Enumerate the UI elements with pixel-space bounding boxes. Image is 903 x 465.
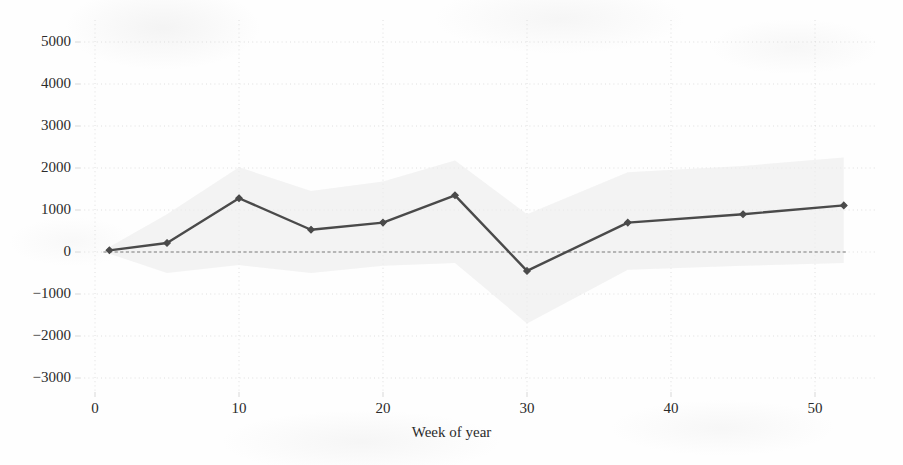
y-tick-label: −2000	[33, 328, 71, 343]
x-axis-title: Week of year	[0, 424, 903, 441]
y-tick-label: 0	[64, 244, 72, 259]
x-tick-label: 0	[65, 401, 125, 416]
y-tick-label: −1000	[33, 286, 71, 301]
y-tick-label: 4000	[41, 76, 71, 91]
y-tick-label: 5000	[41, 34, 71, 49]
plot-area	[0, 0, 903, 465]
x-tick-label: 10	[209, 401, 269, 416]
y-tick-label: 3000	[41, 118, 71, 133]
x-tick-label: 50	[785, 401, 845, 416]
x-tick-label: 20	[353, 401, 413, 416]
x-tick-label: 40	[641, 401, 701, 416]
confidence-band	[109, 158, 843, 324]
chart-figure: 500040003000200010000−1000−2000−3000 010…	[0, 0, 903, 465]
y-tick-label: 1000	[41, 202, 71, 217]
y-tick-label: 2000	[41, 160, 71, 175]
x-tick-label: 30	[497, 401, 557, 416]
y-tick-label: −3000	[33, 370, 71, 385]
